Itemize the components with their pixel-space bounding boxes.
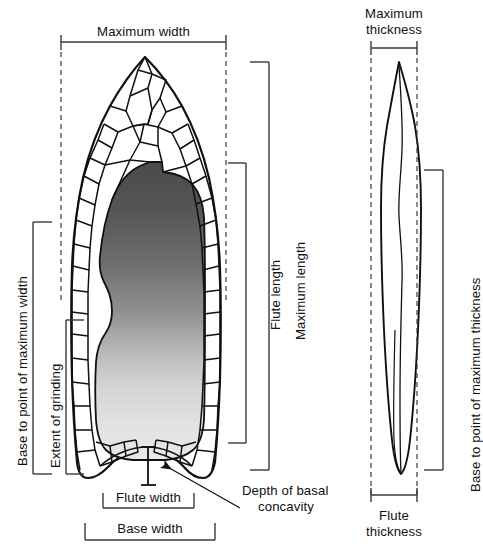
label-maximum-thickness-line1: Maximum [365,6,423,21]
label-extent-of-grinding: Extent of grinding [48,364,63,468]
label-depth-of-basal-concavity-line1: Depth of basal [242,483,328,498]
bracket-maximum-thickness [371,41,417,55]
label-maximum-length: Maximum length [293,242,308,340]
label-flute-width: Flute width [103,490,194,505]
label-flute-thickness-line2: thickness [366,524,422,539]
label-maximum-thickness-line2: thickness [366,22,422,37]
profile-view-point [381,62,421,474]
bracket-base-to-point-of-maximum-thickness [424,170,443,470]
bracket-maximum-length [250,62,269,470]
flute-channel [95,162,205,460]
label-base-to-point-of-maximum-thickness: Base to point of maximum thickness [468,278,483,493]
label-maximum-thickness: Maximum thickness [344,6,444,37]
profile-outline [381,62,421,474]
label-flute-thickness-line1: Flute [379,508,409,523]
bracket-flute-thickness [371,488,417,502]
label-base-to-point-of-maximum-width: Base to point of maximum width [15,276,30,466]
label-flute-thickness: Flute thickness [339,508,449,539]
label-base-width: Base width [85,521,215,536]
label-depth-of-basal-concavity: Depth of basal concavity [242,483,350,514]
face-view-point [71,57,221,478]
bracket-flute-length [228,163,246,443]
label-maximum-width: Maximum width [61,24,226,39]
label-flute-length: Flute length [268,260,283,330]
label-depth-of-basal-concavity-line2: concavity [242,499,314,515]
